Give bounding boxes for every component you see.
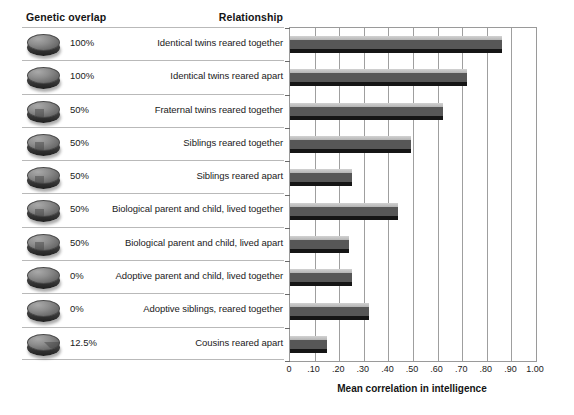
genetic-disc-icon [25, 332, 65, 358]
relationship-label: Adoptive parent and child, lived togethe… [116, 270, 283, 281]
table-row: 100%Identical twins reared together [22, 27, 284, 60]
genetic-disc-icon [25, 165, 65, 191]
bar-body [290, 240, 349, 249]
x-tick-label: 0 [286, 364, 291, 374]
bar [290, 69, 467, 86]
genetic-overlap-correlation-chart: Genetic overlap Relationship 100%Identic… [0, 0, 574, 415]
gridline [487, 28, 488, 361]
table-row: 50%Fraternal twins reared together [22, 94, 284, 127]
table-row: 100%Identical twins reared apart [22, 60, 284, 93]
y-axis-tick [285, 261, 290, 262]
genetic-disc-icon [25, 32, 65, 58]
genetic-disc-icon [25, 99, 65, 125]
bar-body [290, 207, 398, 216]
relationship-label: Siblings reared together [183, 137, 283, 148]
x-tick-label: .10 [307, 364, 320, 374]
x-tick-label: .50 [406, 364, 419, 374]
bar-shadow [290, 349, 327, 353]
x-tick-label: .80 [480, 364, 493, 374]
bar-shadow [290, 316, 369, 320]
genetic-overlap-value: 50% [70, 237, 89, 248]
x-axis-label: Mean correlation in intelligence [289, 383, 535, 394]
x-tick-label: .30 [357, 364, 370, 374]
bar-body [290, 273, 352, 282]
x-tick-label: .90 [504, 364, 517, 374]
bar-shadow [290, 282, 352, 286]
bar-body [290, 40, 502, 49]
relationship-label: Biological parent and child, lived toget… [112, 203, 283, 214]
genetic-overlap-value: 50% [70, 203, 89, 214]
bar [290, 269, 352, 286]
x-tick-label: .20 [332, 364, 345, 374]
x-tick-label: .70 [455, 364, 468, 374]
genetic-overlap-value: 100% [70, 70, 94, 81]
bar [290, 303, 369, 320]
gridline [511, 28, 512, 361]
x-axis-tick-labels: 0.10.20.30.40.50.60.70.80.901.00 [289, 364, 535, 378]
bar-shadow [290, 49, 502, 53]
bar [290, 103, 443, 120]
bar-shadow [290, 116, 443, 120]
relationship-label: Identical twins reared together [157, 37, 283, 48]
genetic-overlap-value: 50% [70, 137, 89, 148]
column-header-relationship: Relationship [0, 11, 283, 23]
bar-body [290, 340, 327, 349]
table-row: 12.5%Cousins reared apart [22, 327, 284, 360]
x-tick-label: .40 [381, 364, 394, 374]
table-row: 50%Biological parent and child, lived to… [22, 193, 284, 226]
relationship-label: Identical twins reared apart [170, 70, 283, 81]
table-row: 50%Biological parent and child, lived ap… [22, 227, 284, 260]
relationship-table: 100%Identical twins reared together100%I… [22, 27, 284, 360]
bar [290, 169, 352, 186]
bar [290, 136, 411, 153]
genetic-disc-icon [25, 232, 65, 258]
bar-body [290, 140, 411, 149]
genetic-disc-icon [25, 265, 65, 291]
bar-shadow [290, 249, 349, 253]
table-row: 0%Adoptive siblings, reared together [22, 293, 284, 326]
y-axis-tick [285, 361, 290, 362]
y-axis-tick [285, 161, 290, 162]
bar-body [290, 173, 352, 182]
bar-body [290, 307, 369, 316]
genetic-disc-icon [25, 132, 65, 158]
relationship-label: Siblings reared apart [196, 170, 283, 181]
plot-area [289, 27, 537, 362]
table-row: 50%Siblings reared together [22, 127, 284, 160]
y-axis-tick [285, 294, 290, 295]
y-axis-tick [285, 228, 290, 229]
y-axis-tick [285, 95, 290, 96]
bar [290, 336, 327, 353]
x-tick-label: .60 [430, 364, 443, 374]
disc-wedge [27, 101, 60, 118]
bar-body [290, 73, 467, 82]
bar-shadow [290, 149, 411, 153]
genetic-disc-icon [25, 65, 65, 91]
bar-shadow [290, 182, 352, 186]
y-axis-tick [285, 328, 290, 329]
table-row: 50%Siblings reared apart [22, 160, 284, 193]
genetic-disc-icon [25, 298, 65, 324]
disc-top [27, 267, 60, 284]
y-axis-tick [285, 195, 290, 196]
relationship-label: Adoptive siblings, reared together [143, 303, 283, 314]
relationship-label: Biological parent and child, lived apart [125, 237, 283, 248]
x-tick-label: 1.00 [526, 364, 544, 374]
bar-shadow [290, 82, 467, 86]
bar-body [290, 107, 443, 116]
bar [290, 236, 349, 253]
disc-top [27, 34, 60, 51]
genetic-overlap-value: 0% [70, 303, 84, 314]
y-axis-tick [285, 61, 290, 62]
genetic-overlap-value: 12.5% [70, 337, 97, 348]
bar-shadow [290, 216, 398, 220]
disc-wedge [27, 334, 60, 351]
relationship-label: Cousins reared apart [195, 337, 283, 348]
y-axis-tick [285, 128, 290, 129]
y-axis-tick [285, 28, 290, 29]
table-row: 0%Adoptive parent and child, lived toget… [22, 260, 284, 293]
genetic-overlap-value: 100% [70, 37, 94, 48]
disc-wedge [27, 234, 60, 251]
relationship-label: Fraternal twins reared together [155, 104, 283, 115]
genetic-overlap-value: 50% [70, 104, 89, 115]
